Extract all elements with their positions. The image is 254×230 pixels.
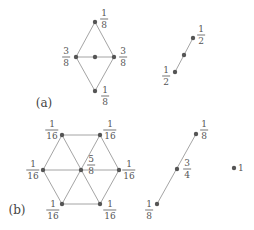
- fraction-denominator: 8: [62, 59, 70, 68]
- fraction-numerator: 1: [197, 25, 205, 34]
- fraction-denominator: 16: [45, 132, 58, 141]
- fraction-label: 18: [100, 9, 108, 30]
- fraction-label: 116: [103, 120, 116, 141]
- fraction-label: 18: [101, 86, 109, 107]
- fraction-denominator: 2: [162, 78, 170, 87]
- segment-node-bottom: [155, 202, 159, 206]
- segment-node-top: [191, 36, 195, 40]
- fraction-label: 12: [197, 25, 205, 46]
- segment-node-mid: [175, 167, 179, 171]
- fraction-numerator: 1: [200, 120, 208, 129]
- fraction-denominator: 4: [183, 171, 191, 180]
- fraction-denominator: 8: [119, 59, 127, 68]
- fraction-numerator: 5: [87, 155, 95, 164]
- diamond-node-left: [74, 55, 78, 59]
- fraction-numerator: 3: [62, 47, 70, 56]
- fraction-denominator: 8: [87, 167, 95, 176]
- fraction-numerator: 1: [125, 160, 133, 169]
- point-node-p: [232, 166, 236, 170]
- fraction-denominator: 16: [103, 212, 116, 221]
- fraction-denominator: 16: [46, 212, 59, 221]
- fraction-denominator: 16: [103, 132, 116, 141]
- fraction-denominator: 2: [197, 37, 205, 46]
- graph-layer: [0, 0, 254, 230]
- hexagon-node-r: [117, 168, 121, 172]
- fraction-denominator: 8: [101, 98, 109, 107]
- segment-node-bottom: [173, 70, 177, 74]
- hexagon-node-br: [98, 202, 102, 206]
- fraction-numerator: 3: [119, 47, 127, 56]
- diamond-edge: [76, 57, 95, 91]
- hexagon-node-l: [41, 168, 45, 172]
- fraction-label: 116: [103, 200, 116, 221]
- fraction-numerator: 1: [162, 66, 170, 75]
- fraction-numerator: 1: [106, 200, 114, 209]
- fraction-denominator: 8: [200, 132, 208, 141]
- fraction-label: 116: [46, 200, 59, 221]
- fraction-denominator: 16: [26, 172, 39, 181]
- fraction-label: 12: [162, 66, 170, 87]
- fraction-label: 116: [45, 120, 58, 141]
- hexagon-node-c: [79, 168, 83, 172]
- panel-label-b: (b): [8, 203, 25, 217]
- fraction-numerator: 1: [100, 9, 108, 18]
- diamond-node-center: [93, 55, 97, 59]
- segment-node-mid: [182, 53, 186, 57]
- fraction-denominator: 8: [145, 212, 153, 221]
- segment-node-top: [194, 132, 198, 136]
- diagram-canvas: (a)183838181212(b)1161161165811611611618…: [0, 0, 254, 230]
- fraction-label: 18: [145, 200, 153, 221]
- fraction-numerator: 1: [106, 120, 114, 129]
- fraction-denominator: 8: [100, 21, 108, 30]
- fraction-label: 34: [183, 159, 191, 180]
- fraction-denominator: 16: [122, 172, 135, 181]
- fraction-label: 38: [62, 47, 70, 68]
- fraction-numerator: 3: [183, 159, 191, 168]
- hexagon-node-tl: [60, 133, 64, 137]
- fraction-label: 116: [26, 160, 39, 181]
- fraction-numerator: 1: [101, 86, 109, 95]
- hexagon-node-tr: [98, 133, 102, 137]
- fraction-numerator: 1: [29, 160, 37, 169]
- fraction-numerator: 1: [49, 200, 57, 209]
- fraction-label: 38: [119, 47, 127, 68]
- node-label: 1: [238, 163, 244, 173]
- diamond-node-right: [112, 55, 116, 59]
- fraction-numerator: 1: [145, 200, 153, 209]
- fraction-label: 58: [87, 155, 95, 176]
- fraction-numerator: 1: [48, 120, 56, 129]
- fraction-label: 18: [200, 120, 208, 141]
- diamond-node-top: [93, 20, 97, 24]
- panel-label-a: (a): [36, 96, 53, 110]
- hexagon-node-bl: [60, 202, 64, 206]
- diamond-node-bottom: [93, 89, 97, 93]
- diamond-edge: [76, 22, 95, 57]
- fraction-label: 116: [122, 160, 135, 181]
